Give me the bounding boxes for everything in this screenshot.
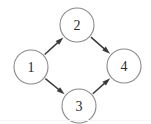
edge-line <box>45 79 59 91</box>
graph-edge-1-to-3 <box>45 79 64 95</box>
directed-graph-diagram: 1234 <box>0 0 151 124</box>
edge-line <box>91 37 105 49</box>
node-label: 2 <box>74 18 81 33</box>
graph-edge-1-to-2 <box>45 37 64 54</box>
graph-canvas: 1234 <box>0 0 151 124</box>
scan-artifact-line <box>0 120 151 121</box>
graph-node-3[interactable]: 3 <box>62 89 96 123</box>
graph-node-1[interactable]: 1 <box>14 50 48 84</box>
node-label: 4 <box>121 59 128 74</box>
graph-node-2[interactable]: 2 <box>60 8 94 42</box>
edge-layer <box>45 37 111 94</box>
graph-edge-2-to-4 <box>91 37 110 54</box>
node-label: 1 <box>28 60 35 75</box>
node-label: 3 <box>76 99 83 114</box>
node-layer: 1234 <box>14 8 141 123</box>
graph-edge-3-to-4 <box>93 78 110 93</box>
edge-line <box>93 83 105 94</box>
edge-line <box>45 42 59 55</box>
graph-node-4[interactable]: 4 <box>107 49 141 83</box>
